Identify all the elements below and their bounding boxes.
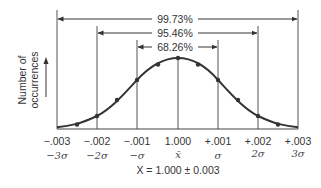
svg-text:−.002: −.002 <box>84 135 111 147</box>
y-axis-label: Number of occurrences <box>16 51 40 108</box>
svg-text:+.002: +.002 <box>245 135 272 147</box>
x-axis-label: X = 1.000 ± 0.003 <box>136 164 219 176</box>
svg-text:+.001: +.001 <box>205 135 232 147</box>
svg-text:Number of: Number of <box>16 55 28 104</box>
svg-text:−.003: −.003 <box>44 135 71 147</box>
sigma-labels: −3σ −2σ −σ x̄ σ 2σ 3σ <box>46 148 306 161</box>
svg-text:x̄: x̄ <box>175 149 181 160</box>
svg-text:3σ: 3σ <box>291 148 305 159</box>
svg-text:−.001: −.001 <box>124 135 151 147</box>
band-68-label: 68.26% <box>157 41 193 53</box>
svg-text:−2σ: −2σ <box>86 150 109 161</box>
normal-distribution-chart: 99.73% 95.46% 68.26% Number of occurrenc… <box>0 0 321 188</box>
y-axis-arrow-icon <box>44 57 49 97</box>
band-99-label: 99.73% <box>157 13 193 25</box>
svg-text:2σ: 2σ <box>250 148 265 159</box>
svg-text:σ: σ <box>215 150 223 161</box>
svg-text:−σ: −σ <box>129 150 145 161</box>
svg-text:−3σ: −3σ <box>46 150 69 161</box>
band-95-label: 95.46% <box>157 27 193 39</box>
svg-text:occurrences: occurrences <box>28 51 40 108</box>
svg-text:+.003: +.003 <box>285 135 312 147</box>
x-tick-labels: −.003 −.002 −.001 1.000 +.001 +.002 +.00… <box>44 135 312 147</box>
svg-text:1.000: 1.000 <box>165 135 191 147</box>
